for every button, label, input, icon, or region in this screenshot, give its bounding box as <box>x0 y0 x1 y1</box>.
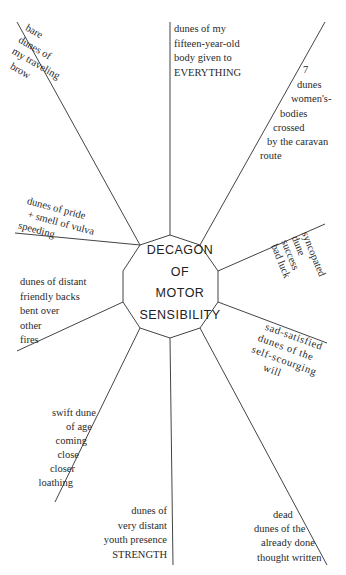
stanza-left-lower: dunes of distant friendly backs bent ove… <box>20 275 87 348</box>
title-line: OF <box>130 262 230 284</box>
ray-bottom <box>170 338 173 565</box>
title-line: DECAGON <box>130 240 230 262</box>
title-line: MOTOR <box>130 283 230 305</box>
stanza-bottom: dunes of very distant youth presence STR… <box>40 504 167 562</box>
decagon-poem: DECAGON OF MOTOR SENSIBILITY bare dunes … <box>0 0 346 575</box>
title-line: SENSIBILITY <box>130 305 230 327</box>
decagon-title: DECAGON OF MOTOR SENSIBILITY <box>130 240 230 326</box>
stanza-top: dunes of my fifteen-year-old body given … <box>174 22 241 80</box>
